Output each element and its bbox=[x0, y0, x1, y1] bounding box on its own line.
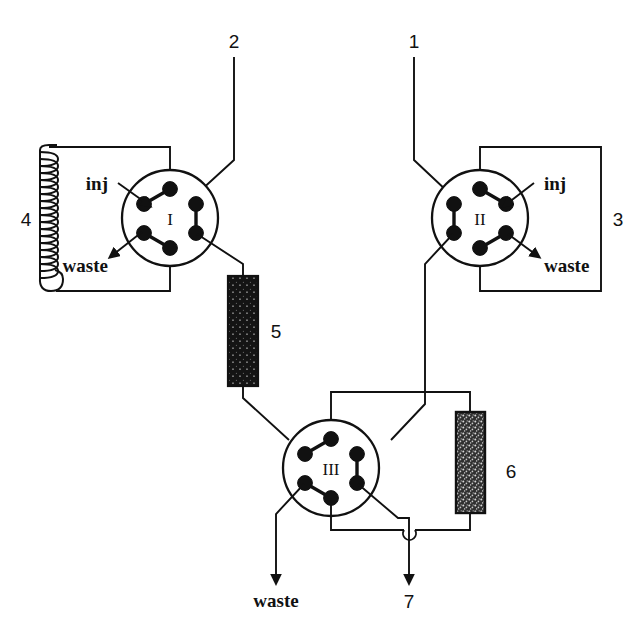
column-6 bbox=[456, 412, 485, 513]
valve-II-port-5[interactable] bbox=[499, 226, 514, 241]
column-6-body bbox=[456, 412, 485, 513]
valve-I[interactable]: I bbox=[114, 170, 243, 276]
label-loop-4: 4 bbox=[21, 209, 32, 230]
valve-I-port-6[interactable] bbox=[163, 241, 178, 256]
inlet-line-1 bbox=[414, 57, 448, 192]
valve-I-port-5[interactable] bbox=[137, 226, 152, 241]
valve-I-port-3[interactable] bbox=[189, 197, 204, 212]
valve-II-waste-label: waste bbox=[544, 255, 589, 276]
valve-I-inj-label: inj bbox=[86, 173, 108, 194]
valve-I-label: I bbox=[167, 210, 173, 229]
valve-II[interactable]: II bbox=[391, 170, 535, 440]
valve-II-port-2[interactable] bbox=[499, 197, 514, 212]
valve-II-port-1[interactable] bbox=[473, 182, 488, 197]
flow-diagram-svg: I II bbox=[0, 0, 639, 630]
valve-II-label: II bbox=[474, 210, 486, 229]
label-outlet-7: 7 bbox=[404, 591, 415, 612]
column-5-body bbox=[228, 276, 258, 386]
label-inlet-1: 1 bbox=[409, 31, 420, 52]
valve-I-waste-label: waste bbox=[63, 255, 108, 276]
valve-III-waste-label: waste bbox=[253, 590, 298, 611]
valve-I-port-1[interactable] bbox=[163, 182, 178, 197]
column-5 bbox=[228, 276, 289, 440]
valve-II-inj-label: inj bbox=[544, 173, 566, 194]
valve-II-port-6[interactable] bbox=[473, 241, 488, 256]
valve-III[interactable]: III bbox=[276, 392, 470, 578]
label-inlet-2: 2 bbox=[229, 31, 240, 52]
valve-II-port-3[interactable] bbox=[447, 197, 462, 212]
valve-I-port-4[interactable] bbox=[189, 226, 204, 241]
valve-III-label: III bbox=[323, 460, 340, 479]
valve-III-port-3[interactable] bbox=[350, 447, 365, 462]
label-loop-3: 3 bbox=[613, 209, 624, 230]
flow-diagram-canvas: I II bbox=[0, 0, 639, 630]
valve-III-port-2[interactable] bbox=[298, 447, 313, 462]
label-column-5: 5 bbox=[271, 321, 282, 342]
valve-III-port-1[interactable] bbox=[324, 432, 339, 447]
label-column-6: 6 bbox=[506, 461, 517, 482]
inlet-line-2 bbox=[199, 57, 234, 192]
